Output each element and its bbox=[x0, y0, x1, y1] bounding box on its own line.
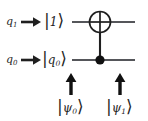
ket-inner-value: ψ bbox=[63, 101, 72, 115]
annotation-label-psi1: |ψ1⟩ bbox=[106, 98, 133, 115]
quantum-circuit-figure: q1 q0 |1⟩ |q0⟩ bbox=[0, 0, 148, 121]
cnot-target-oplus-icon bbox=[90, 12, 111, 33]
register-arrow-q0-icon bbox=[21, 55, 41, 65]
annotation-arrow-psi0-icon bbox=[66, 73, 77, 95]
ket-right-angle: ⟩ bbox=[77, 96, 84, 116]
annotation-arrow-psi1-icon bbox=[115, 73, 126, 95]
register-arrow-q1-icon bbox=[21, 17, 41, 27]
ket-right-angle: ⟩ bbox=[126, 96, 133, 116]
ket-inner-value: ψ bbox=[112, 101, 121, 115]
cnot-control-dot-icon bbox=[95, 55, 104, 64]
annotation-label-psi0: |ψ0⟩ bbox=[57, 98, 84, 115]
